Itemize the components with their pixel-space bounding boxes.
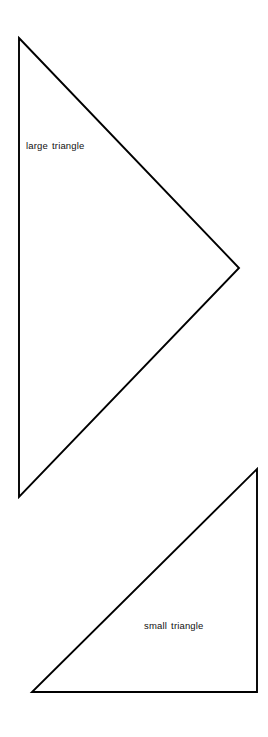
small-triangle-label: small triangle — [144, 621, 203, 631]
figure-canvas: large triangle small triangle — [0, 0, 268, 737]
triangles-diagram — [0, 0, 268, 737]
large-triangle-label: large triangle — [26, 141, 84, 151]
small-triangle-shape — [32, 469, 257, 692]
large-triangle-shape — [19, 38, 239, 497]
